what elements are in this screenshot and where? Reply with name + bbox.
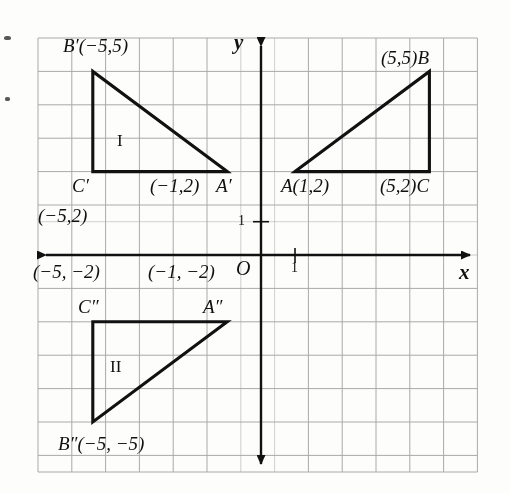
label-a: A(1,2)	[281, 176, 329, 195]
label-b-double-prime: B″(−5, −5)	[58, 434, 144, 453]
label-c-double-prime: C″	[78, 297, 99, 316]
label-c-prime: C′	[72, 176, 89, 195]
axis-x	[46, 248, 470, 263]
scan-speckle	[5, 97, 10, 101]
origin-label: O	[236, 258, 250, 278]
label-a-double-prime-coord: (−1, −2)	[148, 262, 215, 281]
label-a-prime: A′	[216, 176, 232, 195]
label-b: (5,5)B	[381, 48, 429, 67]
label-c: (5,2)C	[380, 176, 429, 195]
triangle-abc	[295, 71, 429, 171]
label-b-prime: B′(−5,5)	[63, 36, 128, 55]
x-axis-label: x	[459, 262, 470, 283]
y-axis-label: y	[234, 32, 243, 53]
label-a-prime-coord: (−1,2)	[150, 176, 199, 195]
y-tick-label-1: 1	[238, 214, 245, 228]
scan-speckle	[4, 36, 11, 40]
plot-canvas	[0, 0, 510, 493]
label-c-double-prime-coord: (−5, −2)	[33, 262, 100, 281]
label-c-prime-coord: (−5,2)	[38, 206, 87, 225]
region-label-one: I	[117, 132, 123, 149]
x-tick-label-1: 1	[291, 261, 298, 275]
region-label-two: II	[110, 358, 121, 375]
label-a-double-prime: A″	[203, 297, 223, 316]
coordinate-plane-figure: y x O 1 1 B′(−5,5) (5,5)B C′ (−1,2) A′ A…	[0, 0, 510, 493]
